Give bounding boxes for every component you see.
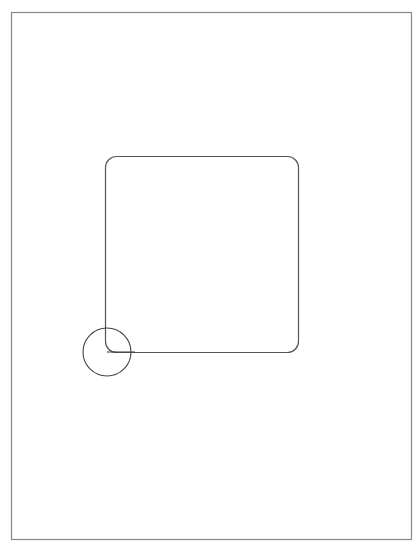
page-border — [12, 13, 412, 540]
drawing-canvas[interactable] — [0, 0, 420, 546]
